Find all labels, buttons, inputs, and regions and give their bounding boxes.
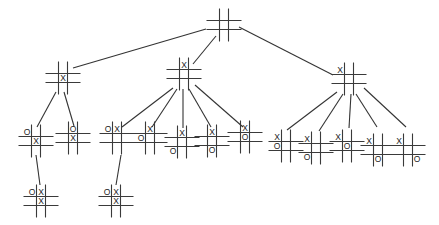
x-mark: X xyxy=(33,136,39,146)
x-mark: X xyxy=(38,196,44,206)
o-mark: O xyxy=(29,187,36,197)
board-node-n3e: XO xyxy=(391,134,426,167)
o-mark: O xyxy=(242,132,249,142)
x-mark: X xyxy=(70,133,76,143)
board-node-n2e: XO xyxy=(228,121,263,154)
tree-edge xyxy=(189,89,211,127)
x-mark: X xyxy=(335,132,341,142)
game-tree-diagram: XXXOXOXOXXOXOXOXOXOXOXOXOXOOXXOXX xyxy=(0,0,439,225)
o-mark: O xyxy=(138,133,145,143)
tree-nodes: XXXOXOXOXXOXOXOXOXOXOXOXOXOOXXOXX xyxy=(19,9,426,218)
tree-edge xyxy=(64,92,74,126)
board-node-n1a: OX xyxy=(19,125,54,158)
tree-edge xyxy=(287,92,337,130)
x-mark: X xyxy=(179,128,185,138)
x-mark: X xyxy=(366,136,372,146)
tree-edge xyxy=(193,36,216,64)
x-mark: X xyxy=(209,127,215,137)
board-node-n2b: XO xyxy=(133,122,168,155)
o-mark: O xyxy=(375,154,382,164)
x-mark: X xyxy=(114,124,120,134)
tree-edge xyxy=(37,92,56,127)
o-mark: O xyxy=(170,146,177,156)
o-mark: O xyxy=(414,154,421,164)
board-node-n3c: XO xyxy=(330,130,365,163)
tree-edge xyxy=(239,27,333,75)
o-mark: O xyxy=(304,152,311,162)
o-mark: O xyxy=(209,145,216,155)
board-node-n1: X xyxy=(46,62,81,95)
board-node-n3a: XO xyxy=(269,130,304,163)
x-mark: X xyxy=(337,65,343,75)
board-node-n2a1: OXX xyxy=(99,185,134,218)
tree-edge xyxy=(356,94,377,127)
x-mark: X xyxy=(147,124,153,134)
tree-edge xyxy=(349,94,351,128)
board-node-n2c: XO xyxy=(165,126,200,159)
x-mark: X xyxy=(304,134,310,144)
o-mark: O xyxy=(104,187,111,197)
x-mark: X xyxy=(396,136,402,146)
o-mark: O xyxy=(344,141,351,151)
board-node-n2a: OX xyxy=(100,122,135,155)
o-mark: O xyxy=(105,124,112,134)
tree-edge xyxy=(36,155,40,185)
board-node-n2d: XO xyxy=(195,125,230,158)
board-node-n3d: XO xyxy=(361,134,396,167)
tree-edge xyxy=(364,88,406,127)
x-mark: X xyxy=(181,60,187,70)
tree-edge xyxy=(116,155,121,185)
x-mark: X xyxy=(60,73,66,83)
board-node-n1b: OX xyxy=(56,122,91,155)
tree-edge xyxy=(195,85,243,127)
x-mark: X xyxy=(113,196,119,206)
board-node-n3b: XO xyxy=(299,132,334,165)
o-mark: O xyxy=(24,127,31,137)
tree-edge xyxy=(319,94,343,131)
tree-edges xyxy=(36,27,406,185)
board-node-root xyxy=(207,9,242,42)
board-node-n1a1: OXX xyxy=(24,185,59,218)
board-node-n3: X xyxy=(332,63,367,96)
o-mark: O xyxy=(274,141,281,151)
